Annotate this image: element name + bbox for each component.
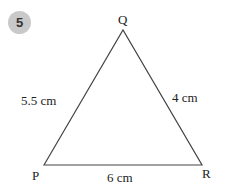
- side-label-pq: 5.5 cm: [21, 93, 56, 108]
- side-label-pr: 6 cm: [107, 170, 133, 185]
- vertex-label-p: P: [32, 168, 39, 183]
- vertex-label-q: Q: [118, 12, 128, 27]
- triangle-diagram: Q P R 5.5 cm 4 cm 6 cm: [0, 0, 230, 192]
- vertex-label-r: R: [202, 166, 211, 181]
- side-label-qr: 4 cm: [172, 90, 198, 105]
